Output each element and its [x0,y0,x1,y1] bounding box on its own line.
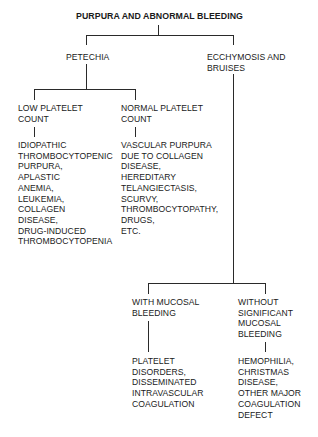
node-without-mucosal: WITHOUT SIGNIFICANT MUCOSAL BLEEDING [238,297,293,340]
diagram-title: PURPURA AND ABNORMAL BLEEDING [76,11,243,22]
node-normal-platelet-causes: VASCULAR PURPURA DUE TO COLLAGEN DISEASE… [121,140,218,236]
connector-low-drop [34,89,35,100]
node-low-platelet: LOW PLATELET COUNT [18,103,83,124]
node-petechia: PETECHIA [66,52,109,63]
node-low-platelet-causes: IDIOPATHIC THROMBOCYTOPENIC PURPURA, APL… [18,140,113,247]
node-without-mucosal-causes: HEMOPHILIA, CHRISTMAS DISEASE, OTHER MAJ… [238,356,301,420]
connector-level1-bracket [86,35,234,36]
connector-petechia-drop [86,35,87,45]
connector-platelet-bracket [34,89,136,90]
connector-petechia-stem [86,64,87,90]
connector-ecchymosis-stem [233,74,234,284]
connector-low-causes [34,127,35,137]
connector-with-drop [148,283,149,294]
connector-mucosal-bracket [148,283,266,284]
node-normal-platelet: NORMAL PLATELET COUNT [121,103,203,124]
node-with-mucosal-causes: PLATELET DISORDERS, DISSEMINATED INTRAVA… [132,356,203,410]
connector-ecchymosis-drop [233,35,234,45]
connector-without-drop [265,283,266,294]
connector-normal-causes [135,127,136,137]
connector-with-causes [148,321,149,352]
node-ecchymosis: ECCHYMOSIS AND BRUISES [207,52,286,73]
connector-normal-drop [135,89,136,100]
node-with-mucosal: WITH MUCOSAL BLEEDING [132,297,199,318]
connector-without-causes [265,342,266,352]
